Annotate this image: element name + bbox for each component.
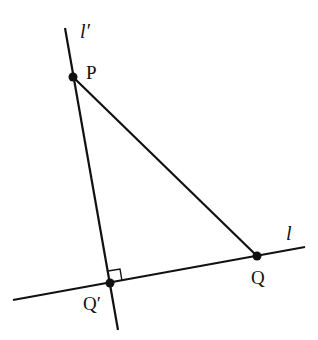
geometry-diagram: l′ P l Q Q′: [0, 0, 318, 340]
label-l-prime: l′: [80, 20, 91, 42]
point-p: [69, 73, 78, 82]
label-q-prime: Q′: [83, 293, 101, 314]
point-q-prime: [106, 279, 115, 288]
label-p: P: [86, 62, 97, 83]
label-l: l: [286, 222, 292, 244]
point-q: [253, 252, 262, 261]
label-q: Q: [251, 267, 265, 288]
